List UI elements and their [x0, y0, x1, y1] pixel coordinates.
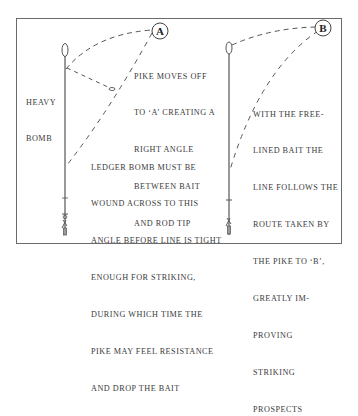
right-rod-icon — [226, 42, 232, 235]
left-caption-bottom: LEDGER BOMB MUST BE WOUND ACROSS TO THIS… — [91, 137, 222, 416]
left-rod-icon — [62, 44, 68, 236]
line-to-bomb — [67, 68, 110, 88]
heavy-bomb-label: HEAVY BOMB — [26, 72, 56, 170]
marker-a-label: A — [152, 23, 168, 39]
right-caption: WITH THE FREE- LINED BAIT THE LINE FOLLO… — [253, 84, 338, 416]
bomb-icon — [109, 88, 115, 91]
marker-b-label: B — [315, 20, 331, 36]
line-to-b-arc — [232, 27, 316, 45]
